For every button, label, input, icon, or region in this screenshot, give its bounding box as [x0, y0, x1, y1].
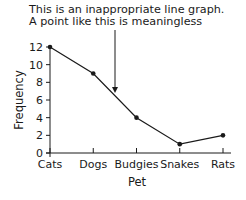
data-point [134, 115, 139, 120]
y-tick-label: 6 [36, 94, 43, 107]
line-chart: 024681012CatsDogsBudgiesSnakesRatsPetFre… [0, 0, 246, 200]
x-tick-label: Rats [211, 158, 235, 171]
x-tick-label: Dogs [79, 158, 107, 171]
data-point [221, 133, 226, 138]
arrow-head [112, 87, 118, 93]
annotation-arrow [112, 30, 118, 93]
y-axis-title: Frequency [12, 70, 26, 130]
y-tick-label: 12 [29, 41, 43, 54]
x-tick-label: Cats [38, 158, 63, 171]
data-point [177, 142, 182, 147]
data-line [50, 47, 223, 144]
y-tick-label: 2 [36, 129, 43, 142]
x-tick-label: Budgies [114, 158, 158, 171]
chart-series [48, 45, 226, 147]
data-point [48, 45, 53, 50]
data-point [91, 71, 96, 76]
y-tick-label: 8 [36, 76, 43, 89]
y-tick-label: 4 [36, 112, 43, 125]
y-tick-label: 10 [29, 59, 43, 72]
chart-axes: 024681012CatsDogsBudgiesSnakesRatsPetFre… [12, 41, 235, 189]
x-tick-label: Snakes [160, 158, 199, 171]
x-axis-title: Pet [128, 175, 147, 189]
